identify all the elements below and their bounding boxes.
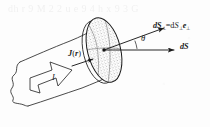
angle-theta-arc bbox=[135, 41, 137, 49]
ds-perp-s: S bbox=[157, 21, 162, 30]
conductor-torn-end bbox=[11, 62, 28, 106]
vector-current-density-arrow bbox=[72, 59, 93, 66]
theta-symbol: θ bbox=[141, 33, 145, 43]
current-density-paren-close: ) bbox=[78, 49, 81, 58]
label-ds-perp: dS⊥=dS⊥e⊥ bbox=[153, 22, 190, 31]
ds-perp-subscript-3: ⊥ bbox=[186, 25, 190, 31]
label-current-density: J(r) bbox=[68, 50, 81, 58]
ds-s: S bbox=[184, 42, 189, 51]
ds-perp-s-scalar: S bbox=[174, 21, 178, 30]
figure-container: dh r 9 M 2 2 u e 9 4 h x 9 3 G bbox=[0, 0, 210, 127]
block-arrow-current bbox=[30, 62, 72, 93]
label-current: I bbox=[52, 74, 55, 82]
label-ds: dS bbox=[180, 43, 189, 51]
figure-drawing bbox=[0, 0, 210, 127]
label-angle-theta: θ bbox=[141, 34, 145, 43]
current-symbol: I bbox=[52, 73, 55, 82]
